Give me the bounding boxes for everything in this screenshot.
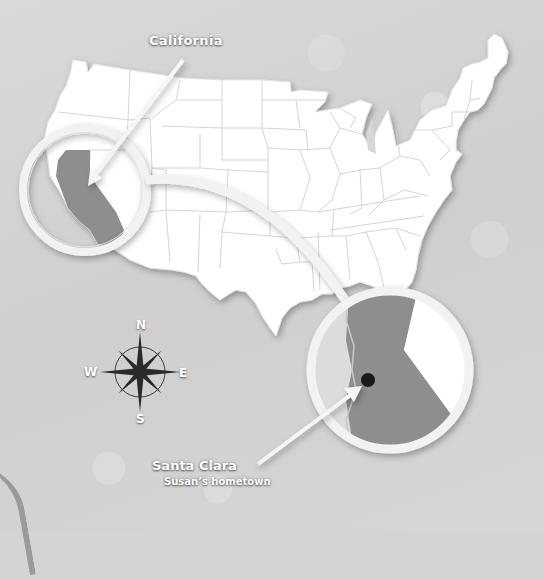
- hometown-caption: Susan’s hometown: [164, 476, 271, 487]
- compass-rose: [100, 332, 180, 412]
- compass-east-label: E: [179, 366, 187, 380]
- santa-clara-label: Santa Clara: [152, 458, 237, 473]
- santa-clara-marker: [361, 373, 375, 387]
- magnifier-santa-clara: [300, 280, 500, 480]
- us-landmass: [44, 34, 508, 336]
- compass-west-label: W: [84, 365, 97, 379]
- compass-north-label: N: [136, 318, 146, 332]
- california-label: California: [149, 33, 223, 48]
- compass-south-label: S: [136, 412, 145, 426]
